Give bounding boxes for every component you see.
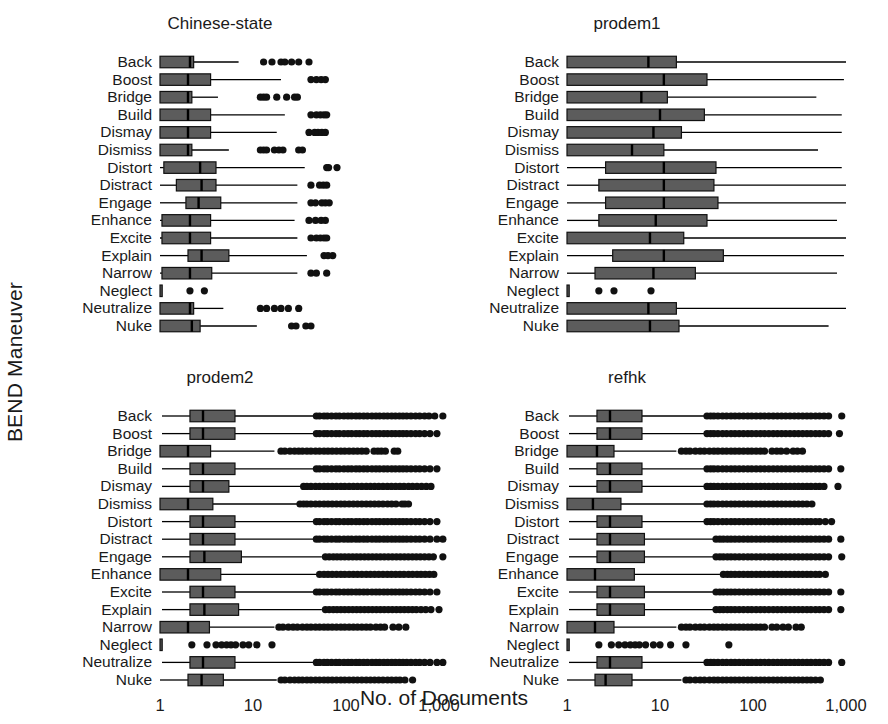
x-tick-label: 1,000 (825, 696, 866, 715)
box-dismay (569, 481, 842, 493)
box-engage (567, 197, 846, 209)
x-tick-label: 100 (739, 696, 767, 715)
box-back (569, 410, 845, 422)
box-distract (567, 179, 846, 191)
box-dismiss (567, 144, 818, 156)
box-narrow (567, 267, 837, 279)
box-engage (569, 551, 845, 563)
box-narrow (567, 621, 805, 633)
box-back (567, 56, 846, 68)
box-explain (567, 250, 844, 262)
box-nuke (567, 674, 824, 686)
plot-area (0, 368, 888, 708)
x-tick-label: 10 (651, 696, 669, 715)
box-boost (567, 74, 844, 86)
boxplot-figure: BEND Maneuver No. of Documents Chinese-s… (0, 0, 888, 724)
box-bridge (567, 91, 816, 103)
box-enhance (567, 215, 837, 227)
panel-refhk: refhkBackBoostBridgeBuildDismayDismissDi… (0, 368, 888, 708)
box-neglect (567, 285, 655, 297)
box-enhance (567, 569, 829, 581)
box-neutralize (567, 303, 846, 315)
box-distract (569, 533, 844, 545)
x-tick-label: 1 (562, 696, 571, 715)
box-distort (569, 516, 835, 528)
box-excite (569, 586, 844, 598)
box-neutralize (569, 657, 845, 669)
plot-area (0, 14, 888, 354)
box-build (569, 463, 844, 475)
box-bridge (567, 445, 806, 457)
box-boost (569, 428, 843, 440)
box-dismay (567, 127, 842, 138)
box-excite (567, 232, 846, 244)
panel-prodem1: prodem1BackBoostBridgeBuildDismayDismiss… (0, 14, 888, 354)
box-build (567, 109, 842, 121)
box-explain (569, 604, 844, 616)
box-distort (567, 162, 842, 174)
box-neglect (567, 639, 732, 651)
box-dismiss (567, 498, 816, 510)
box-nuke (567, 320, 829, 332)
